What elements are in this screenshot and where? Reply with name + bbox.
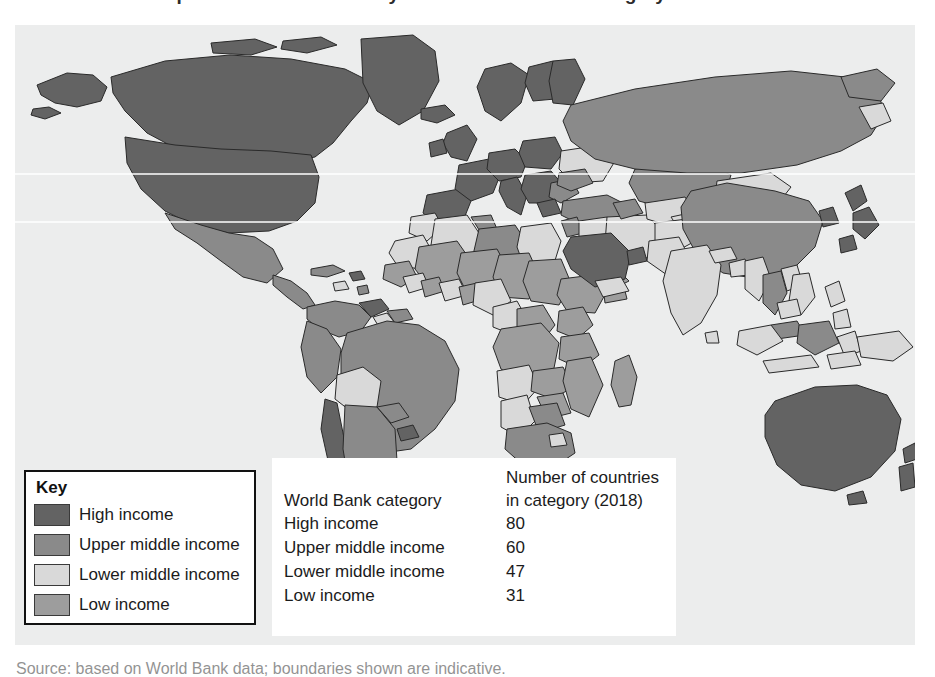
legend-label-high-income: High income — [79, 505, 174, 525]
table-row: Lower middle income — [284, 560, 506, 584]
table-row: Low income — [284, 584, 506, 608]
legend-item-high-income: High income — [34, 500, 246, 530]
legend-item-lower-middle-income: Lower middle income — [34, 560, 246, 590]
table-cell-count: 31 — [506, 584, 666, 608]
table-row: High income — [284, 512, 506, 536]
legend-label-low-income: Low income — [79, 595, 170, 615]
table-header-count: Number of countries in category (2018) — [506, 466, 666, 512]
legend-item-low-income: Low income — [34, 590, 246, 620]
figure-caption-strip: Source: based on World Bank data; bounda… — [0, 658, 935, 677]
legend-label-lower-middle-income: Lower middle income — [79, 565, 240, 585]
legend-item-upper-middle-income: Upper middle income — [34, 530, 246, 560]
figure-title: Map of world economies by World Bank inc… — [150, 0, 666, 5]
table-row: Upper middle income — [284, 536, 506, 560]
legend-swatch-upper-middle-income — [34, 534, 70, 556]
figure-caption: Source: based on World Bank data; bounda… — [16, 660, 506, 677]
legend-swatch-high-income — [34, 504, 70, 526]
table-header-count-line2: in category (2018) — [506, 489, 666, 512]
table-header-count-line1: Number of countries — [506, 466, 666, 489]
table-header-category: World Bank category — [284, 489, 506, 512]
table-grid: World Bank category Number of countries … — [284, 466, 666, 608]
table-cell-count: 60 — [506, 536, 666, 560]
table-cell-count: 47 — [506, 560, 666, 584]
legend-heading: Key — [36, 478, 246, 498]
legend-swatch-lower-middle-income — [34, 564, 70, 586]
figure-title-strip: Map of world economies by World Bank inc… — [0, 0, 935, 14]
income-category-table: World Bank category Number of countries … — [272, 458, 676, 636]
map-legend-key: Key High income Upper middle income Lowe… — [24, 470, 256, 625]
legend-label-upper-middle-income: Upper middle income — [79, 535, 240, 555]
legend-swatch-low-income — [34, 594, 70, 616]
table-cell-count: 80 — [506, 512, 666, 536]
